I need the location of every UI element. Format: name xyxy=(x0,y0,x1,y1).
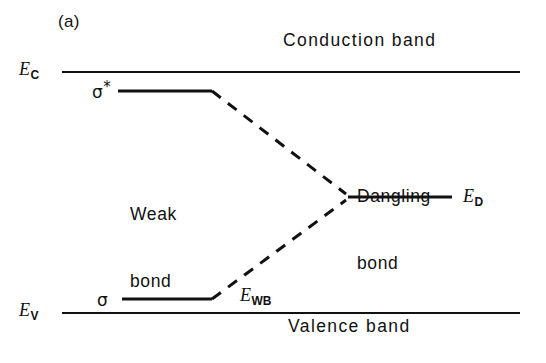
dangling-bond-energy-symbol: ED xyxy=(463,186,483,209)
energy-level-diagram xyxy=(0,0,546,363)
weak-bond-region-label-line2: bond xyxy=(130,270,177,292)
valence-band-energy-symbol: EV xyxy=(19,300,39,323)
energy-symbol-subscript: D xyxy=(474,195,483,209)
panel-label: (a) xyxy=(58,12,80,31)
weak-bond-energy-symbol: EWB xyxy=(240,285,272,308)
dangling-bond-region-label-line1: Dangling xyxy=(357,185,431,207)
energy-symbol-letter: E xyxy=(19,59,30,79)
energy-symbol-subscript: WB xyxy=(251,294,272,308)
energy-symbol-letter: E xyxy=(19,300,30,320)
weak-bond-region-label-line1: Weak xyxy=(130,203,177,225)
sigma-superscript xyxy=(108,286,109,304)
sigma-star-label: σ* xyxy=(92,79,111,102)
energy-symbol-letter: E xyxy=(463,186,474,206)
correlation-line-sigma-star-to-dangling xyxy=(212,91,346,194)
sigma-star-superscript: * xyxy=(103,78,111,96)
correlation-line-sigma-to-dangling xyxy=(212,200,346,299)
sigma-label: σ xyxy=(97,287,108,310)
conduction-band-energy-symbol: EC xyxy=(19,59,39,82)
energy-symbol-letter: E xyxy=(240,285,251,305)
dangling-bond-region-label-line2: bond xyxy=(357,252,431,274)
energy-symbol-subscript: V xyxy=(30,309,39,323)
energy-symbol-subscript: C xyxy=(30,68,39,82)
figure-root: (a) Conduction band Valence band EC EV E… xyxy=(0,0,546,363)
sigma-glyph: σ xyxy=(97,290,108,310)
valence-band-label: Valence band xyxy=(288,317,411,337)
conduction-band-label: Conduction band xyxy=(283,31,436,51)
weak-bond-region-label: Weak bond xyxy=(130,158,177,337)
sigma-star-glyph: σ xyxy=(92,82,103,102)
dangling-bond-region-label: Dangling bond xyxy=(357,140,431,319)
